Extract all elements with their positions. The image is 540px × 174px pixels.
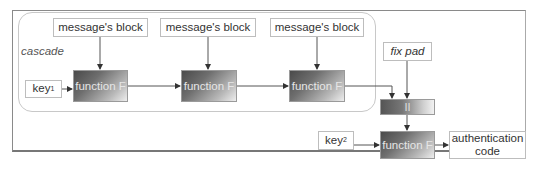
connector-arrows <box>0 0 540 174</box>
